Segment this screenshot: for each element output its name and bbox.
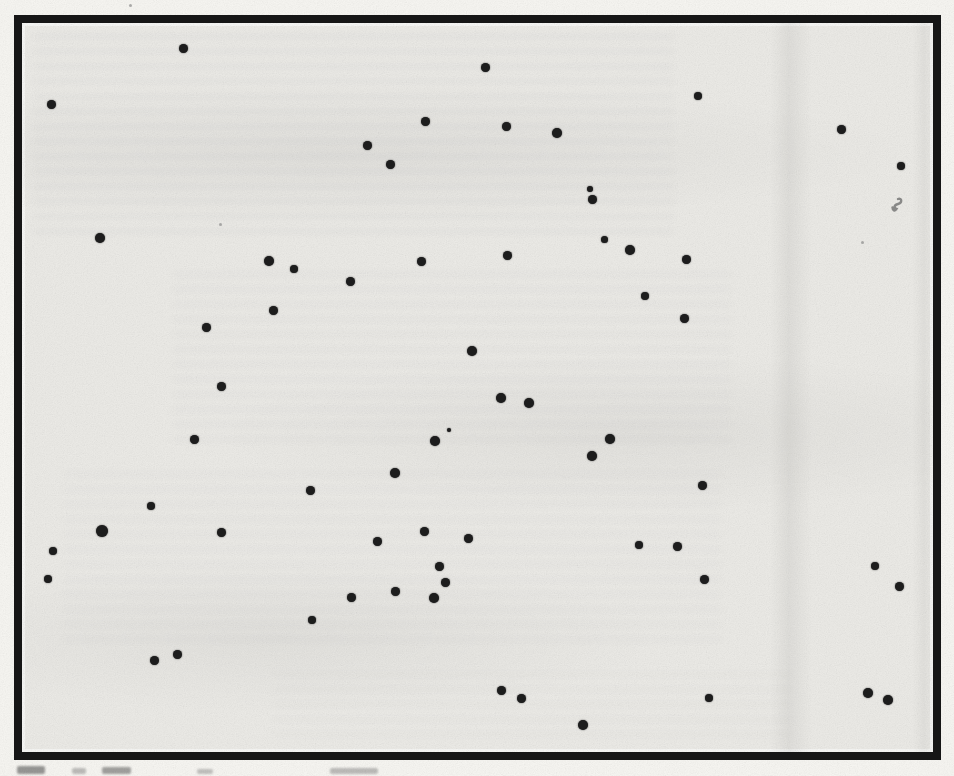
showthrough-text-band (34, 35, 674, 235)
ink-smudge (887, 196, 905, 220)
halftone-blotch (22, 563, 660, 713)
caption-fragment (17, 766, 45, 774)
paper-speck (129, 4, 132, 7)
figure-frame (14, 15, 941, 760)
showthrough-text-band (62, 473, 722, 653)
dot-figure-field (22, 23, 933, 752)
halftone-blotch (204, 353, 933, 513)
ink-smudge-path (893, 199, 902, 211)
caption-fragment (197, 769, 213, 774)
showthrough-text-band (272, 673, 792, 743)
scanned-book-page (0, 0, 954, 776)
caption-fragment (102, 767, 131, 774)
caption-fragment (330, 768, 378, 774)
showthrough-text-band (172, 273, 732, 453)
caption-fragment (72, 768, 86, 774)
scan-streak (912, 23, 933, 752)
scan-streak (770, 23, 812, 752)
halftone-blotch (22, 83, 933, 223)
